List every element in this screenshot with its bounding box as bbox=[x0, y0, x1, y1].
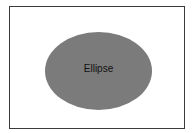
ellipse-label: Ellipse bbox=[84, 63, 113, 74]
ellipse-shape[interactable]: Ellipse bbox=[45, 32, 152, 110]
diagram-frame: Ellipse bbox=[9, 6, 185, 129]
